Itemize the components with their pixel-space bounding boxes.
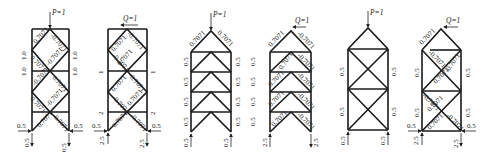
side-label: 0.5 xyxy=(413,68,421,77)
side-label: 2 xyxy=(149,111,157,115)
truss-diagram-4: Q=1 0.7071 -0.7071 0.7071 -0.7071 0.7071… xyxy=(249,16,320,147)
load-label: Q=1 xyxy=(123,14,137,23)
member-label: -0.7071 xyxy=(296,111,317,132)
load-label: P=1 xyxy=(212,10,226,19)
reaction-label: 0.5 xyxy=(379,136,387,145)
side-label: 1.0 xyxy=(71,67,79,76)
load-label: Q=1 xyxy=(295,16,309,25)
side-label: 0.5 xyxy=(249,97,257,106)
member-label: -0.7071 xyxy=(129,112,150,134)
side-label: 0.5 xyxy=(464,68,472,77)
member-label: -0.7071 xyxy=(296,71,317,92)
reaction-label: 0.5 xyxy=(60,143,68,152)
reaction-label: 0.5 xyxy=(407,122,416,130)
member-label: -0.7071 xyxy=(296,52,317,73)
side-label: 0.5 xyxy=(182,57,190,66)
load-label: Q=1 xyxy=(446,16,460,25)
member-label: -0.7071 xyxy=(51,112,72,134)
reaction-label: 2.5 xyxy=(412,136,420,145)
side-label: 2 xyxy=(97,111,105,115)
truss-diagram-3: P=1 0.7071 0.7071 0.5 0.5 0.5 0.5 0.5 0.… xyxy=(182,10,242,147)
reaction-label: 0.5 xyxy=(182,138,190,147)
reaction-label: 0.5 xyxy=(339,136,347,145)
load-label: P=1 xyxy=(51,8,65,17)
load-label: P=1 xyxy=(369,8,383,17)
side-label: 0.5 xyxy=(249,77,257,86)
reaction-label: 0.5 xyxy=(222,138,230,147)
side-label: 0.5 xyxy=(234,77,242,86)
side-label: 0.5 xyxy=(234,97,242,106)
member-label: 0.7071 xyxy=(110,73,129,93)
side-label: 0.5 xyxy=(234,57,242,66)
truss-diagram-1: P=1 0.7071 -0.7071 0.7071 -0.7071 -0.707… xyxy=(17,8,83,152)
side-label: 0.5 xyxy=(182,117,190,126)
reaction-label: 2.5 xyxy=(312,138,320,147)
side-label: 0.5 xyxy=(413,108,421,117)
reaction-label: 2.5 xyxy=(138,139,146,148)
truss-diagram-2: Q=1 -0.7071 0.7071 0.7071 -0.7071 -0.707… xyxy=(92,14,161,148)
side-label: 1.0 xyxy=(20,51,28,60)
member-label: 0.7071 xyxy=(426,112,446,132)
side-label: 0.5 xyxy=(390,107,398,116)
member-label: -0.7071 xyxy=(445,112,466,133)
side-label: 1 xyxy=(149,70,157,74)
side-label: 1.0 xyxy=(71,51,79,60)
reaction-label: 2.5 xyxy=(98,136,106,145)
reaction-label: 0.5 xyxy=(467,122,476,130)
truss-diagram-6: Q=1 0.7071 -0.7071 0.7071 -0.7071 0.7071… xyxy=(407,16,476,148)
truss-diagram-5: P=1 0.5 0.5 0.5 0.5 0.5 0.5 xyxy=(338,8,398,145)
reaction-label: 0.5 xyxy=(74,122,83,130)
side-label: 0.5 xyxy=(464,108,472,117)
member-label: -0.7071 xyxy=(296,91,317,112)
truss-diagrams: P=1 0.7071 -0.7071 0.7071 -0.7071 -0.707… xyxy=(0,0,491,162)
side-label: 1.0 xyxy=(20,67,28,76)
reaction-label: 0.5 xyxy=(17,122,26,130)
side-label: 0.5 xyxy=(249,117,257,126)
side-label: 0.5 xyxy=(249,57,257,66)
member-label: -0.7071 xyxy=(45,87,66,109)
side-label: 0.5 xyxy=(390,67,398,76)
reaction-label: 0.5 xyxy=(92,122,101,130)
side-label: 1 xyxy=(97,70,105,74)
reaction-label: 0.5 xyxy=(152,122,161,130)
reaction-label: 2.5 xyxy=(261,138,269,147)
side-label: 0.5 xyxy=(234,117,242,126)
side-label: 0.5 xyxy=(182,97,190,106)
side-label: 0.5 xyxy=(338,107,346,116)
side-label: 0.5 xyxy=(182,77,190,86)
reaction-label: 2.5 xyxy=(452,139,460,148)
reaction-label: 0.5 xyxy=(23,138,31,147)
side-label: 0.5 xyxy=(338,67,346,76)
